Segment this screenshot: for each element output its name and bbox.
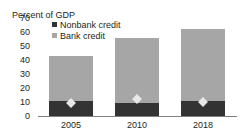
bar-segment-bank-credit[interactable] xyxy=(115,38,159,103)
bar-segment-bank-credit[interactable] xyxy=(49,56,93,102)
x-axis-tick-label: 2010 xyxy=(107,120,167,130)
chart-container: Percent of GDP Nonbank credit Bank credi… xyxy=(0,0,241,140)
y-axis-tick-label: 30 xyxy=(6,70,30,79)
y-axis-tick-label: 0 xyxy=(6,112,30,121)
y-axis-tick-label: 40 xyxy=(6,56,30,65)
y-axis-tick-label: 60 xyxy=(6,28,30,37)
x-axis-tick-label: 2005 xyxy=(41,120,101,130)
x-axis-line xyxy=(38,116,237,117)
bar-segment-bank-credit[interactable] xyxy=(181,29,225,101)
y-axis-tick-label: 50 xyxy=(6,42,30,51)
y-axis-tick-label: 70 xyxy=(6,14,30,23)
plot-area xyxy=(38,18,236,116)
bar-group[interactable] xyxy=(181,18,225,116)
y-axis-tick-label: 20 xyxy=(6,84,30,93)
y-axis-tick-label: 10 xyxy=(6,98,30,107)
bar-group[interactable] xyxy=(115,18,159,116)
x-axis-tick-label: 2018 xyxy=(173,120,233,130)
bar-segment-nonbank-credit[interactable] xyxy=(115,103,159,116)
bar-group[interactable] xyxy=(49,18,93,116)
